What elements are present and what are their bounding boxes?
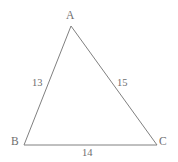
side-length-label-bc: 14 (82, 147, 93, 158)
vertex-label-a: A (66, 10, 74, 21)
triangle-outline (24, 26, 157, 145)
vertex-label-c: C (159, 136, 167, 147)
side-length-label-ab: 13 (32, 77, 43, 88)
triangle-canvas (0, 0, 178, 162)
vertex-label-b: B (11, 136, 19, 147)
triangle-figure: A B C 13 15 14 (0, 0, 178, 162)
side-length-label-ac: 15 (117, 77, 128, 88)
